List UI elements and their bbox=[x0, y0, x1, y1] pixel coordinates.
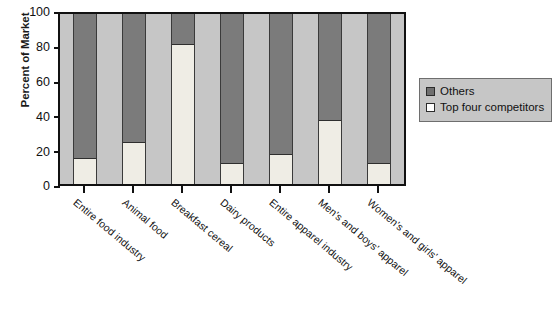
bar-men-s-and-boys-apparel[interactable] bbox=[318, 14, 342, 184]
segment-others bbox=[123, 14, 145, 143]
legend-label-others: Others bbox=[440, 84, 475, 100]
x-tick-2 bbox=[181, 186, 183, 193]
plot-area bbox=[58, 12, 406, 186]
x-axis-label-6: Women's and girls' apparel bbox=[365, 196, 469, 286]
bar-entire-food-industry[interactable] bbox=[73, 14, 97, 184]
segment-top-four-competitors bbox=[74, 159, 96, 185]
y-tick-label-0: 0 bbox=[18, 179, 50, 193]
segment-others bbox=[74, 14, 96, 159]
y-tick-label-20: 20 bbox=[18, 145, 50, 159]
segment-others bbox=[221, 14, 243, 164]
bar-women-s-and-girls-apparel[interactable] bbox=[367, 14, 391, 184]
segment-top-four-competitors bbox=[221, 164, 243, 184]
y-tick-0 bbox=[54, 186, 60, 188]
x-tick-4 bbox=[279, 186, 281, 193]
segment-others bbox=[368, 14, 390, 164]
segment-others bbox=[319, 14, 341, 121]
legend-label-top-four-competitors: Top four competitors bbox=[440, 100, 544, 116]
segment-top-four-competitors bbox=[270, 155, 292, 184]
x-tick-1 bbox=[132, 186, 134, 193]
bar-dairy-products[interactable] bbox=[220, 14, 244, 184]
segment-others bbox=[172, 14, 194, 45]
segment-top-four-competitors bbox=[172, 45, 194, 184]
chart-figure: Percent of Market 100 80 60 40 20 0 Enti… bbox=[0, 0, 559, 309]
bar-breakfast-cereal[interactable] bbox=[171, 14, 195, 184]
x-tick-3 bbox=[230, 186, 232, 193]
segment-top-four-competitors bbox=[368, 164, 390, 184]
x-tick-6 bbox=[377, 186, 379, 193]
x-tick-0 bbox=[83, 186, 85, 193]
x-tick-5 bbox=[328, 186, 330, 193]
legend-item-top-four-competitors: Top four competitors bbox=[426, 100, 544, 116]
x-axis-label-5: Men's and boys' apparel bbox=[316, 196, 410, 278]
segment-top-four-competitors bbox=[319, 121, 341, 184]
bar-entire-apparel-industry[interactable] bbox=[269, 14, 293, 184]
white-swatch-icon bbox=[426, 103, 435, 112]
segment-others bbox=[270, 14, 292, 155]
x-axis-label-4: Entire apparel industry bbox=[267, 196, 355, 273]
bar-animal-food[interactable] bbox=[122, 14, 146, 184]
x-axis-label-1: Animal food bbox=[120, 196, 170, 241]
segment-top-four-competitors bbox=[123, 143, 145, 184]
dark-gray-swatch-icon bbox=[426, 87, 435, 96]
legend-item-others: Others bbox=[426, 84, 544, 100]
chart-legend: Others Top four competitors bbox=[419, 78, 552, 122]
y-axis-title: Percent of Market bbox=[19, 0, 35, 133]
bar-group bbox=[60, 14, 404, 184]
